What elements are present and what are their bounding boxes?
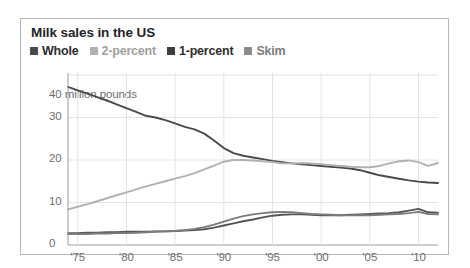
y-tick-label: 20 — [49, 152, 62, 164]
y-tick-label: 30 — [49, 110, 62, 122]
legend-label: 1-percent — [179, 44, 233, 58]
chart-legend: Whole2-percent1-percentSkim — [30, 44, 297, 58]
legend-label: Skim — [256, 44, 285, 58]
x-tick-label: '75 — [70, 251, 85, 263]
x-tick-label: '00 — [314, 251, 329, 263]
x-tick-label: '05 — [362, 251, 377, 263]
legend-label: 2-percent — [102, 44, 156, 58]
chart-figure: Milk sales in the US Whole2-percent1-per… — [0, 0, 470, 268]
legend-item-whole[interactable]: Whole — [30, 44, 79, 58]
series-line-whole — [68, 87, 438, 183]
series-line-1-percent — [68, 209, 438, 233]
legend-label: Whole — [42, 44, 79, 58]
plot-area — [48, 69, 442, 251]
y-tick-label: 0 — [49, 237, 55, 249]
legend-item-1-percent[interactable]: 1-percent — [167, 44, 233, 58]
legend-item-2-percent[interactable]: 2-percent — [90, 44, 156, 58]
x-tick-label: '95 — [265, 251, 280, 263]
x-tick-label: '90 — [216, 251, 231, 263]
y-tick-label: 10 — [49, 195, 62, 207]
chart-card: Milk sales in the US Whole2-percent1-per… — [20, 18, 449, 255]
legend-swatch-icon — [30, 47, 38, 55]
chart-svg — [48, 69, 442, 251]
legend-swatch-icon — [244, 47, 252, 55]
legend-item-skim[interactable]: Skim — [244, 44, 285, 58]
x-tick-label: '85 — [168, 251, 183, 263]
x-tick-label: '10 — [411, 251, 426, 263]
series-line-2-percent — [68, 160, 438, 209]
x-tick-label: '80 — [119, 251, 134, 263]
legend-swatch-icon — [167, 47, 175, 55]
series-line-skim — [68, 212, 438, 234]
page-title: Milk sales in the US — [31, 25, 155, 40]
legend-swatch-icon — [90, 47, 98, 55]
